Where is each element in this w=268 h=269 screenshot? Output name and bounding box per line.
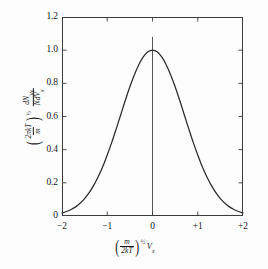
left-paren-icon: ( xyxy=(26,141,40,145)
x-tick-label: −1 xyxy=(92,222,122,232)
y-exponent: ½ xyxy=(26,111,32,116)
y-derivative-numerator: dNVx xyxy=(23,89,33,106)
x-coefficient-numerator: m xyxy=(123,238,130,246)
y-coefficient-denominator: m xyxy=(33,127,42,134)
x-coefficient-denominator: 2kT xyxy=(120,246,133,255)
y-derivative-denominator-sub: x xyxy=(39,89,45,92)
figure-container: 00.20.40.60.81.01.2 −2−10+1+2 ( 2πkT m )… xyxy=(0,0,268,269)
y-derivative-numerator-text: dN xyxy=(22,96,31,105)
x-exponent: ½ xyxy=(141,239,146,245)
right-paren-icon: ) xyxy=(135,240,139,254)
x-tick-label: −2 xyxy=(47,222,77,232)
x-axis-title: ( m 2kT ) ½ Vx xyxy=(0,238,268,255)
x-tick-label: +2 xyxy=(228,222,258,232)
y-axis-title-math: ( 2πkT m ) ½ dNVx NdVx xyxy=(23,88,43,146)
y-coefficient-numerator: 2πkT xyxy=(25,123,33,140)
right-paren-icon: ) xyxy=(26,117,40,121)
y-axis-title: ( 2πkT m ) ½ dNVx NdVx xyxy=(23,37,43,197)
y-derivative-numerator-sub: V xyxy=(28,93,34,97)
x-variable-subscript: x xyxy=(152,248,155,254)
x-tick-label: +1 xyxy=(183,222,213,232)
x-coefficient-fraction: m 2kT xyxy=(120,238,134,255)
x-tick-label: 0 xyxy=(138,222,168,232)
left-paren-icon: ( xyxy=(115,240,119,254)
y-coefficient-fraction: 2πkT m xyxy=(25,122,42,140)
y-derivative-fraction: dNVx NdVx xyxy=(23,88,43,107)
x-variable: Vx xyxy=(147,241,155,253)
x-axis-title-math: ( m 2kT ) ½ Vx xyxy=(114,238,155,255)
